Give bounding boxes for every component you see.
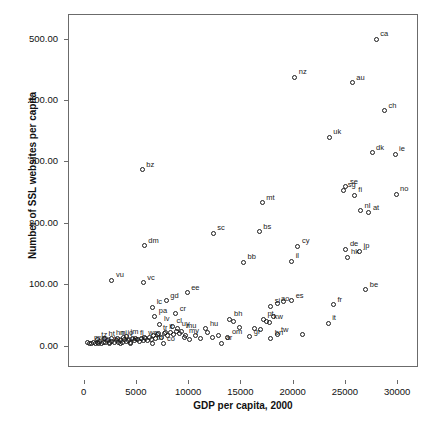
data-point-nz <box>292 75 297 80</box>
data-point-co <box>161 341 166 346</box>
point-label-my: my <box>189 327 199 335</box>
data-point-bo <box>107 341 112 346</box>
scatter-plot-figure: canzauchukdkiebzsesgnofimtnlatbsscdmcyde… <box>0 0 427 423</box>
point-label-bb: bb <box>248 253 256 261</box>
data-point-de <box>343 247 348 252</box>
data-point-ch <box>382 108 387 113</box>
x-tick-label: 30000 <box>374 387 420 397</box>
data-point <box>300 332 305 337</box>
x-tick-label: 10000 <box>165 387 211 397</box>
y-tick-mark <box>64 346 68 347</box>
data-point-au <box>350 80 355 85</box>
data-point-gr <box>247 334 252 339</box>
data-point <box>216 333 221 338</box>
data-point-pa <box>152 314 157 319</box>
point-label-ar: ar <box>226 334 233 342</box>
x-tick-label: 20000 <box>270 387 316 397</box>
point-label-co: co <box>167 335 175 343</box>
point-label-il: il <box>296 252 299 260</box>
data-point-be <box>363 287 368 292</box>
point-label-tr: tr <box>163 324 168 332</box>
x-tick-mark <box>136 380 137 384</box>
data-point <box>210 335 215 340</box>
data-point-dm <box>142 243 147 248</box>
data-point-fi <box>352 193 357 198</box>
point-label-uk: uk <box>333 128 341 136</box>
data-point-fr <box>331 302 336 307</box>
point-label-ee: ee <box>191 284 199 292</box>
data-point-cy <box>295 244 300 249</box>
data-point <box>205 330 210 335</box>
x-tick-label: 0 <box>61 387 107 397</box>
point-label-cr: cr <box>180 305 186 313</box>
data-point-nl <box>358 208 363 213</box>
data-point-ie <box>393 152 398 157</box>
point-label-it: it <box>332 314 336 322</box>
data-point-at <box>366 210 371 215</box>
data-point-mn <box>118 341 123 346</box>
y-tick-mark <box>64 161 68 162</box>
x-tick-label: 5000 <box>113 387 159 397</box>
point-label-at: at <box>373 204 379 212</box>
data-point-ar <box>219 341 224 346</box>
data-point-bb <box>241 260 246 265</box>
point-label-bn: bn <box>275 329 283 337</box>
x-tick-mark <box>345 380 346 384</box>
point-label-fr: fr <box>337 296 342 304</box>
point-label-si: si <box>275 297 280 305</box>
point-label-hk: hk <box>351 248 359 256</box>
point-label-nl: nl <box>365 202 371 210</box>
data-point-dk <box>370 150 375 155</box>
y-axis-label: Number of SSL websites per capita <box>27 66 38 286</box>
data-point-mt <box>260 200 265 205</box>
x-tick-mark <box>188 380 189 384</box>
data-point-ec <box>128 341 133 346</box>
data-point <box>198 336 203 341</box>
y-tick-mark <box>64 39 68 40</box>
data-points-layer: canzauchukdkiebzsesgnofimtnlatbsscdmcyde… <box>0 0 427 423</box>
data-point-no <box>394 192 399 197</box>
data-point-vc <box>141 280 146 285</box>
data-point-bs <box>257 229 262 234</box>
point-label-hu: hu <box>210 320 218 328</box>
data-point-sc <box>211 231 216 236</box>
y-axis-label-wrap: Number of SSL websites per capita <box>0 0 20 400</box>
point-label-ie: ie <box>399 145 405 153</box>
point-label-lc: lc <box>157 298 162 306</box>
point-label-be: be <box>370 281 378 289</box>
x-tick-mark <box>84 380 85 384</box>
data-point-lc <box>150 305 155 310</box>
data-point-uk <box>327 135 332 140</box>
point-label-mt: mt <box>266 194 274 202</box>
point-label-nz: nz <box>299 68 307 76</box>
data-point-ee <box>185 290 190 295</box>
point-label-ch: ch <box>389 102 397 110</box>
data-point-sg <box>341 188 346 193</box>
data-point-ca <box>374 37 379 42</box>
data-point-pt <box>261 317 266 322</box>
point-label-om: om <box>232 328 242 336</box>
point-label-fi: fi <box>358 186 362 194</box>
data-point-th <box>150 341 155 346</box>
point-label-kw: kw <box>274 313 283 321</box>
x-tick-mark <box>240 380 241 384</box>
point-label-gr: gr <box>254 328 261 336</box>
point-label-sc: sc <box>217 224 225 232</box>
point-label-es: es <box>296 292 304 300</box>
point-label-sg: sg <box>348 181 356 189</box>
point-label-ao: ao <box>281 295 289 303</box>
x-axis-label: GDP per capita, 2000 <box>68 400 418 411</box>
point-label-dk: dk <box>376 144 384 152</box>
point-label-lt: lt <box>169 323 173 331</box>
data-point <box>187 337 192 342</box>
y-tick-mark <box>64 100 68 101</box>
point-label-vc: vc <box>147 274 155 282</box>
data-point-si <box>268 304 273 309</box>
data-point-bz <box>140 167 145 172</box>
data-point-vu <box>109 278 114 283</box>
point-label-jp: jp <box>364 242 370 250</box>
point-label-no: no <box>400 185 408 193</box>
x-tick-mark <box>293 380 294 384</box>
point-label-dm: dm <box>148 237 158 245</box>
point-label-bh: bh <box>234 310 242 318</box>
